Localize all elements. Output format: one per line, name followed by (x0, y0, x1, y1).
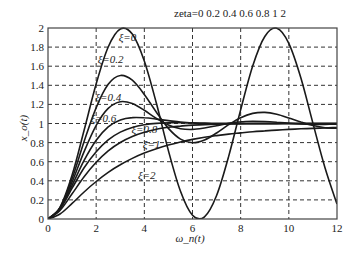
x-axis-label: ω_n(t) (175, 232, 204, 245)
y-axis-label: x_o(t) (17, 115, 30, 143)
y-axis-ticks: 00.20.40.60.811.21.41.61.82 (30, 22, 44, 225)
series-label: ξ=2 (138, 169, 156, 182)
x-tick-label: 2 (93, 222, 99, 234)
series-label: ξ=0 (119, 31, 137, 44)
y-tick-label: 0.8 (30, 137, 44, 149)
x-tick-label: 12 (332, 222, 343, 234)
series-labels: ξ=0ξ=0.2ξ=0.4ξ=0.6ξ=0.8ξ=1ξ=2 (90, 31, 160, 182)
y-tick-label: 1.6 (30, 60, 44, 72)
step-response-chart: zeta=0 0.2 0.4 0.6 0.8 1 2 00.20.40.60.8… (0, 0, 357, 253)
y-tick-label: 1.4 (30, 79, 44, 91)
x-tick-label: 4 (142, 222, 148, 234)
y-tick-label: 0.4 (30, 175, 44, 187)
y-tick-label: 0.2 (30, 194, 44, 206)
y-tick-label: 1 (39, 118, 45, 130)
series-label: ξ=1 (143, 138, 161, 151)
y-tick-label: 0.6 (30, 156, 44, 168)
y-tick-label: 1.2 (30, 98, 44, 110)
chart-title: zeta=0 0.2 0.4 0.6 0.8 1 2 (174, 7, 286, 19)
series-label: ξ=0.4 (95, 91, 121, 104)
y-tick-label: 2 (39, 22, 45, 34)
series-label: ξ=0.6 (90, 112, 116, 125)
y-tick-label: 1.8 (30, 41, 44, 53)
series-label: ξ=0.2 (98, 53, 124, 66)
x-tick-label: 8 (238, 222, 244, 234)
x-tick-label: 0 (45, 222, 51, 234)
series-label: ξ=0.8 (131, 123, 157, 136)
y-tick-label: 0 (39, 213, 45, 225)
x-tick-label: 10 (283, 222, 295, 234)
